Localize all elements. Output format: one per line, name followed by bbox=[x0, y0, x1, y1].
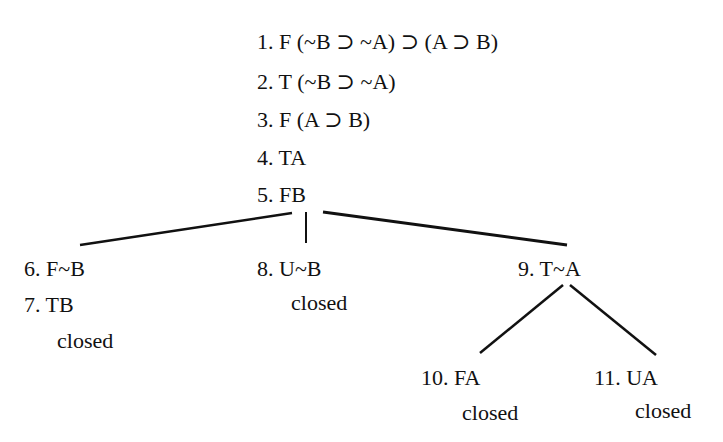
trunk-line-1: 1. F (~B ⊃ ~A) ⊃ (A ⊃ B) bbox=[257, 29, 498, 55]
branch-left-line-7: 7. TB bbox=[24, 292, 74, 318]
branch-right-child-line-11: 11. UA bbox=[594, 365, 658, 391]
formula: F~B bbox=[46, 256, 85, 281]
line-number: 6. bbox=[24, 256, 41, 281]
line-number: 7. bbox=[24, 292, 41, 317]
line-number: 10. bbox=[421, 365, 449, 390]
line-number: 11. bbox=[594, 365, 621, 390]
formula: T~A bbox=[540, 256, 581, 281]
branch-line-10-closed-label: closed bbox=[462, 400, 518, 426]
branch-left-closed-label: closed bbox=[57, 328, 113, 354]
formula: FA bbox=[454, 365, 481, 390]
line-number: 5. bbox=[257, 182, 274, 207]
trunk-line-4: 4. TA bbox=[257, 145, 306, 171]
trunk-line-5: 5. FB bbox=[257, 182, 306, 208]
branch-middle-line-8: 8. U~B bbox=[257, 256, 321, 282]
line-number: 8. bbox=[257, 256, 274, 281]
formula: T (~B ⊃ ~A) bbox=[279, 69, 396, 94]
line-number: 9. bbox=[518, 256, 535, 281]
branch-middle-closed-label: closed bbox=[291, 290, 347, 316]
line-number: 3. bbox=[257, 107, 274, 132]
formula: F (A ⊃ B) bbox=[279, 107, 370, 132]
formula: U~B bbox=[279, 256, 321, 281]
trunk-line-3: 3. F (A ⊃ B) bbox=[257, 107, 370, 133]
formula: FB bbox=[279, 182, 306, 207]
branch-left-line-6: 6. F~B bbox=[24, 256, 85, 282]
formula: TB bbox=[46, 292, 74, 317]
branch-right-line-9: 9. T~A bbox=[518, 256, 581, 282]
line-number: 1. bbox=[257, 29, 274, 54]
formula: F (~B ⊃ ~A) ⊃ (A ⊃ B) bbox=[279, 29, 498, 54]
trunk-line-2: 2. T (~B ⊃ ~A) bbox=[257, 69, 396, 95]
branch-right-child-line-10: 10. FA bbox=[421, 365, 481, 391]
formula: UA bbox=[626, 365, 658, 390]
line-number: 2. bbox=[257, 69, 274, 94]
branch-line-11-closed-label: closed bbox=[635, 398, 691, 424]
line-number: 4. bbox=[257, 145, 274, 170]
formula: TA bbox=[279, 145, 307, 170]
